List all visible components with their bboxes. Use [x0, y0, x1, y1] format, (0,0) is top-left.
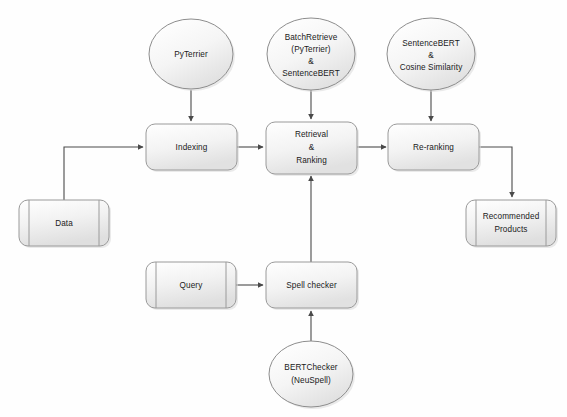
node-sentencebert-cosine[interactable]: SentenceBERT & Cosine Similarity	[387, 18, 477, 92]
node-spell-checker-label: Spell checker	[286, 281, 337, 290]
node-retrieval-ranking-label-3: Ranking	[296, 156, 327, 165]
node-spell-checker[interactable]: Spell checker	[266, 262, 359, 310]
node-data[interactable]: Data	[19, 200, 111, 248]
edge-reranking-to-recommended	[477, 147, 512, 197]
node-data-label: Data	[55, 219, 73, 228]
node-retrieval-ranking[interactable]: Retrieval & Ranking	[266, 122, 359, 176]
node-sentencebert-cosine-label-1: SentenceBERT	[402, 39, 460, 48]
node-reranking-label: Re-ranking	[413, 143, 454, 152]
node-batch-retrieve[interactable]: BatchRetrieve (PyTerrier) & SentenceBERT	[267, 18, 357, 92]
edge-data-to-indexing	[64, 147, 143, 200]
node-indexing[interactable]: Indexing	[146, 124, 239, 172]
node-pyterrier[interactable]: PyTerrier	[149, 19, 235, 91]
node-pyterrier-label: PyTerrier	[174, 50, 208, 59]
node-bert-checker-label-2: (NeuSpell)	[291, 376, 331, 385]
node-batch-retrieve-label-1: BatchRetrieve	[285, 33, 338, 42]
node-batch-retrieve-label-3: &	[308, 57, 314, 66]
node-retrieval-ranking-label-1: Retrieval	[295, 130, 328, 139]
node-recommended-products-label-2: Products	[494, 225, 527, 234]
node-batch-retrieve-label-4: SentenceBERT	[282, 69, 340, 78]
node-query[interactable]: Query	[146, 262, 238, 310]
node-query-label: Query	[180, 281, 204, 290]
node-reranking[interactable]: Re-ranking	[388, 124, 481, 172]
diagram-canvas: PyTerrier BatchRetrieve (PyTerrier) & Se…	[0, 0, 567, 417]
node-retrieval-ranking-label-2: &	[309, 143, 315, 152]
node-recommended-products-label-1: Recommended	[483, 212, 540, 221]
node-sentencebert-cosine-label-3: Cosine Similarity	[400, 63, 463, 72]
node-recommended-products[interactable]: Recommended Products	[466, 200, 558, 248]
node-bert-checker[interactable]: BERTChecker (NeuSpell)	[269, 341, 355, 409]
node-sentencebert-cosine-label-2: &	[428, 51, 434, 60]
node-batch-retrieve-label-2: (PyTerrier)	[291, 45, 330, 54]
node-bert-checker-label-1: BERTChecker	[284, 363, 337, 372]
node-indexing-label: Indexing	[176, 143, 208, 152]
